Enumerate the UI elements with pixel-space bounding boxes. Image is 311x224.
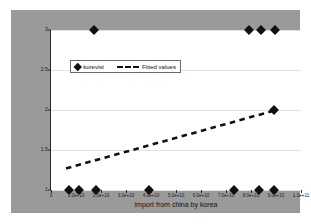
graph-region: 11.522.53 01.0e+102.0e+103.0e+104.0e+105… <box>11 10 300 213</box>
x-tick-label: 3.0e+10 <box>118 194 135 199</box>
chart-legend: korevist Fitted values <box>70 60 181 73</box>
y-tick-label: 2.5 <box>41 67 48 72</box>
plot-area: 11.522.53 01.0e+102.0e+103.0e+104.0e+105… <box>51 30 301 190</box>
y-tick-label: 1.5 <box>41 147 48 152</box>
figure-canvas: 11.522.53 01.0e+102.0e+103.0e+104.0e+105… <box>0 0 311 224</box>
y-tick-label: 3 <box>45 27 48 32</box>
x-tick-label: 4.0e+10 <box>143 194 160 199</box>
legend-entry-fitted-values: Fitted values <box>117 64 176 70</box>
x-tick-label: 8.0e+10 <box>243 194 260 199</box>
diamond-marker-icon <box>74 63 82 71</box>
x-tick-label: 1.0e+10 <box>68 194 85 199</box>
x-tick-label: 5.0e+10 <box>168 194 185 199</box>
fitted-values-line <box>51 30 301 190</box>
x-tick-label: 7.0e+10 <box>218 194 235 199</box>
legend-label-fitted-values: Fitted values <box>142 64 176 70</box>
x-axis-title: import from china by korea <box>51 201 301 208</box>
x-tick-label: 0 <box>50 194 53 199</box>
dashed-line-icon <box>117 66 139 68</box>
legend-label-korevist: korevist <box>83 64 104 70</box>
x-tick-label: 9.0e+10 <box>268 194 285 199</box>
legend-entry-korevist: korevist <box>75 64 104 70</box>
x-tick-label: 6.0e+10 <box>193 194 210 199</box>
y-tick-label: 2 <box>45 107 48 112</box>
x-tick-label: 1.0e+11 <box>293 194 309 199</box>
y-tick-label: 1 <box>45 187 48 192</box>
